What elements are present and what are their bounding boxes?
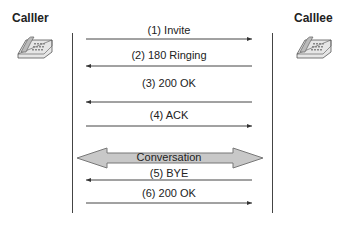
message-label-ack: (4) ACK: [84, 109, 254, 121]
message-label-invite: (1) Invite: [84, 24, 254, 36]
message-label-180-ringing: (2) 180 Ringing: [84, 49, 254, 61]
conversation-label: Conversation: [84, 151, 254, 163]
message-label-200-ok-2: (6) 200 OK: [84, 187, 254, 199]
message-label-200-ok-1: (3) 200 OK: [84, 77, 254, 89]
message-label-bye: (5) BYE: [84, 167, 254, 179]
